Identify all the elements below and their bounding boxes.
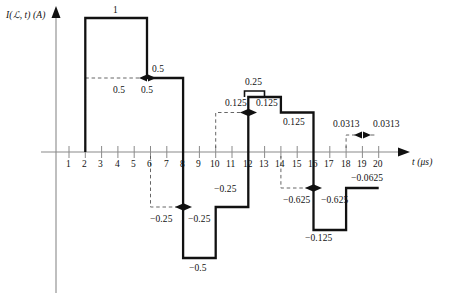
value-label-0p5-pair-left: 0.5 bbox=[113, 86, 125, 96]
x-tick-label-16: 16 bbox=[308, 160, 318, 170]
x-tick-label-11: 11 bbox=[226, 160, 235, 170]
value-label-00313-pair-right: 0.0313 bbox=[373, 120, 400, 130]
value-label-neg0125: −0.125 bbox=[305, 234, 332, 244]
dash-0125 bbox=[216, 113, 245, 149]
arrowhead-right-0125 bbox=[249, 109, 257, 116]
x-tick-label-14: 14 bbox=[275, 160, 285, 170]
arrowhead-left-0p5 bbox=[139, 75, 147, 82]
x-tick-label-3: 3 bbox=[98, 160, 103, 170]
value-label-neg00625: −0.0625 bbox=[351, 174, 383, 184]
x-tick-label-17: 17 bbox=[324, 160, 334, 170]
arrowhead-right-neg0625 bbox=[314, 185, 322, 192]
value-label-0p5-right: 0.5 bbox=[152, 65, 164, 75]
axis-group bbox=[41, 6, 410, 293]
x-tick-label-7: 7 bbox=[164, 160, 169, 170]
x-tick-label-15: 15 bbox=[292, 160, 302, 170]
x-tick-label-9: 9 bbox=[196, 160, 201, 170]
arrowhead-left-neg025 bbox=[175, 204, 183, 211]
x-tick-label-12: 12 bbox=[243, 160, 253, 170]
value-label-0125-pair-right: 0.125 bbox=[256, 99, 278, 109]
arrowhead-left-neg0625 bbox=[305, 185, 313, 192]
value-label-0125-level: 0.125 bbox=[283, 118, 305, 128]
y-axis-arrow bbox=[52, 6, 61, 18]
x-axis-label: t (μs) bbox=[412, 158, 432, 168]
measurement-arrowheads bbox=[139, 75, 371, 211]
value-label-neg025-pair-right: −0.25 bbox=[188, 215, 210, 225]
x-tick-label-2: 2 bbox=[82, 160, 87, 170]
waveform-trace bbox=[85, 18, 378, 258]
value-label-025-bracket: 0.25 bbox=[245, 78, 262, 88]
arrowhead-left-00313 bbox=[354, 132, 362, 139]
x-tick-label-8: 8 bbox=[180, 160, 185, 170]
value-label-00313-pair-left: 0.0313 bbox=[333, 120, 360, 130]
value-label-neg0625-pair-left: −0.625 bbox=[283, 196, 310, 206]
value-label-1: 1 bbox=[113, 6, 118, 16]
x-tick-label-18: 18 bbox=[341, 160, 351, 170]
x-tick-label-1: 1 bbox=[66, 160, 71, 170]
x-tick-label-10: 10 bbox=[210, 160, 220, 170]
waveform-plot bbox=[0, 0, 454, 293]
x-tick-label-6: 6 bbox=[147, 160, 152, 170]
figure-container: I(ℒ, t) (A) t (μs) 1 2 3 4 5 6 7 8 9 10 … bbox=[0, 0, 454, 293]
value-label-neg025-level: −0.25 bbox=[214, 185, 236, 195]
value-label-neg025-pair-left: −0.25 bbox=[150, 215, 172, 225]
value-label-neg05: −0.5 bbox=[189, 264, 207, 274]
x-axis-arrow bbox=[398, 148, 410, 157]
x-tick-label-20: 20 bbox=[373, 160, 383, 170]
arrowhead-right-neg025 bbox=[184, 204, 192, 211]
x-tick-label-19: 19 bbox=[357, 160, 367, 170]
value-label-neg0625-pair-right: −0.625 bbox=[321, 196, 348, 206]
y-axis-label: I(ℒ, t) (A) bbox=[6, 11, 46, 21]
x-tick-label-4: 4 bbox=[115, 160, 120, 170]
arrowhead-left-0125 bbox=[240, 109, 248, 116]
value-label-0p5-pair-right: 0.5 bbox=[141, 86, 153, 96]
value-label-0125-pair-left: 0.125 bbox=[225, 99, 247, 109]
x-tick-label-5: 5 bbox=[131, 160, 136, 170]
arrowhead-right-00313 bbox=[363, 132, 371, 139]
x-tick-label-13: 13 bbox=[259, 160, 269, 170]
